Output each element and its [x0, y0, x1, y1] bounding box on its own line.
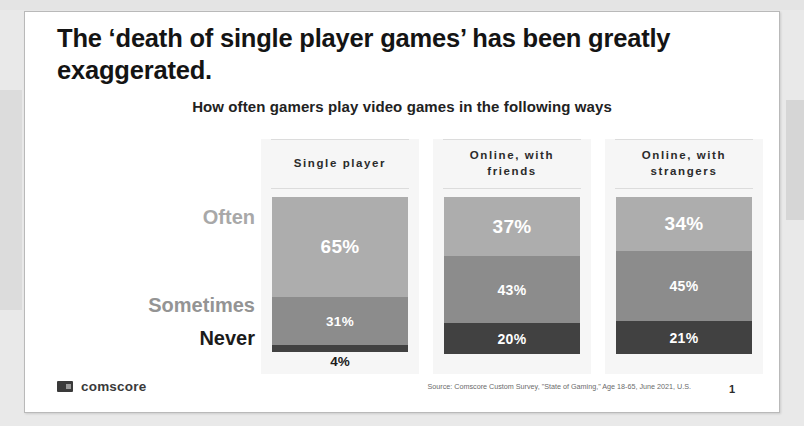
- bar-segment-sometimes-label: 45%: [670, 278, 699, 294]
- bar-segment-sometimes-label: 43%: [498, 282, 527, 298]
- chart-column-online-with-strangers: Online, withstrangers 34% 45% 21%: [605, 139, 763, 374]
- bar-segment-often-label: 37%: [493, 216, 532, 238]
- stacked-bar-online-with-friends: 37% 43% 20%: [444, 197, 580, 354]
- bar-segment-often: 37%: [444, 197, 580, 256]
- bar-segment-never: [272, 345, 408, 352]
- stacked-bar-online-with-strangers: 34% 45% 21%: [616, 197, 752, 354]
- bar-segment-often: 65%: [272, 197, 408, 297]
- column-header-label: Single player: [294, 156, 386, 172]
- column-header-label: Online, withstrangers: [642, 148, 726, 179]
- bar-segment-sometimes: 45%: [616, 251, 752, 321]
- bar-segment-never-label: 21%: [670, 330, 699, 346]
- comscore-logo-icon: [57, 381, 73, 392]
- bar-segment-sometimes: 31%: [272, 297, 408, 345]
- bar-segment-often: 34%: [616, 197, 752, 251]
- viewer-background-top: [0, 0, 804, 10]
- stacked-bar-single-player: 65% 31% 4%: [272, 197, 408, 369]
- source-note: Source: Comscore Custom Survey, "State o…: [428, 382, 691, 391]
- chart-column-online-with-friends: Online, withfriends 37% 43% 20%: [433, 139, 591, 374]
- bar-segment-often-label: 34%: [665, 213, 704, 235]
- column-header-single-player: Single player: [271, 139, 409, 189]
- bar-segment-never-label: 20%: [498, 331, 527, 347]
- comscore-logo: comscore: [57, 379, 146, 394]
- chart-column-single-player: Single player 65% 31% 4%: [261, 139, 419, 374]
- chart-subtitle: How often gamers play video games in the…: [25, 98, 779, 115]
- page-number: 1: [729, 383, 735, 395]
- column-header-online-with-friends: Online, withfriends: [443, 139, 581, 189]
- bar-segment-sometimes-label: 31%: [326, 314, 354, 329]
- column-header-online-with-strangers: Online, withstrangers: [615, 139, 753, 189]
- bar-segment-often-label: 65%: [321, 236, 360, 258]
- slide-canvas: The ‘death of single player games’ has b…: [24, 11, 780, 413]
- bar-segment-never-label: 4%: [272, 352, 408, 369]
- comscore-logo-text: comscore: [81, 379, 146, 394]
- bar-segment-sometimes: 43%: [444, 256, 580, 323]
- bar-segment-never: 21%: [616, 321, 752, 354]
- column-header-label: Online, withfriends: [470, 148, 554, 179]
- viewer-background-band-left: [0, 90, 22, 310]
- bar-segment-never: 20%: [444, 323, 580, 354]
- page-title: The ‘death of single player games’ has b…: [57, 22, 747, 86]
- stacked-bar-chart: Single player 65% 31% 4% Online, withfri…: [237, 139, 757, 379]
- viewer-background-band-right: [786, 100, 804, 220]
